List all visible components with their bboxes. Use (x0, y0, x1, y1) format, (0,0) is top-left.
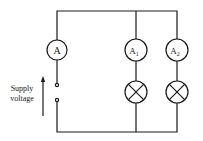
ammeter-1-subscript: 1 (136, 51, 139, 57)
lamp-2-icon (166, 81, 188, 103)
ammeter-2: A2 (166, 39, 188, 61)
main-ammeter: A (47, 40, 67, 60)
main-ammeter-label: A (53, 45, 61, 56)
top-wire (57, 11, 177, 40)
supply-terminal-bottom (55, 98, 58, 101)
supply-voltage-label: Supply voltage (4, 84, 40, 104)
bottom-wire (57, 101, 177, 132)
supply-label-line2: voltage (4, 94, 40, 104)
circuit-diagram: A A1 A2 (0, 0, 203, 141)
supply-arrow-icon (41, 76, 45, 116)
supply-terminal-top (55, 83, 58, 86)
lamp-1-icon (125, 81, 147, 103)
ammeter-2-subscript: 2 (177, 51, 180, 57)
supply-label-line1: Supply (4, 84, 40, 94)
ammeter-1: A1 (125, 39, 147, 61)
wires (57, 11, 177, 132)
